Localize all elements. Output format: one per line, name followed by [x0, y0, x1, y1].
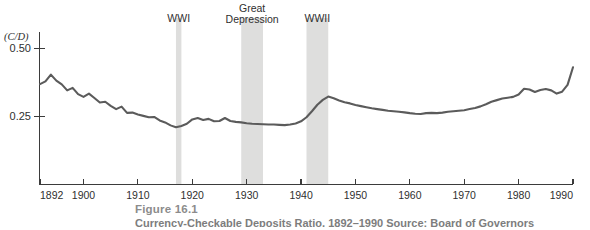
caption-subtitle: Currency-Checkable Deposits Ratio, 1892–…: [135, 217, 590, 227]
figure-container: 0.250.50 1892190019101920193019401950196…: [0, 0, 590, 230]
caption-title: Figure 16.1: [135, 203, 590, 216]
x-tick-label: 1960: [398, 189, 422, 201]
x-tick-label: 1910: [126, 189, 150, 201]
x-tick-label: 1980: [507, 189, 531, 201]
line-chart: 0.250.50 1892190019101920193019401950196…: [0, 0, 590, 205]
figure-caption: Figure 16.1 Currency-Checkable Deposits …: [135, 203, 590, 227]
x-tick-label: 1892: [40, 189, 64, 201]
event-label: WWII: [305, 12, 331, 24]
y-axis-label: (C/D): [4, 31, 29, 43]
x-tick-label: 1990: [550, 189, 574, 201]
event-label: Depression: [226, 13, 279, 25]
event-label: WWI: [167, 12, 190, 24]
x-tick-label: 1920: [181, 189, 205, 201]
x-tick-label: 1950: [344, 189, 368, 201]
event-labels-group: WWIGreatDepressionWWII: [167, 2, 330, 25]
x-tick-label: 1970: [453, 189, 477, 201]
y-tick-label: 0.50: [10, 42, 31, 54]
event-band-great-depression: [241, 18, 263, 184]
x-tick-label: 1900: [72, 189, 96, 201]
x-tick-label: 1930: [235, 189, 259, 201]
event-bands-group: [176, 18, 328, 184]
y-tick-label: 0.25: [10, 110, 31, 122]
event-band-wwii: [307, 18, 329, 184]
event-band-wwi: [176, 18, 181, 184]
x-tick-label: 1940: [289, 189, 313, 201]
